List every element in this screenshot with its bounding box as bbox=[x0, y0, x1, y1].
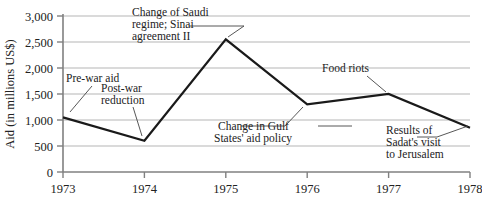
annotation-sadat-visit: Results of Sadat's visit to Jerusalem bbox=[386, 124, 444, 160]
annotation-gulf-states: Change in Gulf States' aid policy bbox=[214, 120, 292, 145]
annotation-food-riots-line1: Food riots bbox=[322, 62, 369, 74]
annotation-sadat-visit-line1: Results of bbox=[386, 124, 432, 136]
annotation-post-war-reduction-line2: reduction bbox=[101, 94, 145, 106]
y-axis-title: Aid (in millions US$) bbox=[3, 39, 17, 148]
x-tick-label-1978: 1978 bbox=[458, 182, 482, 196]
leader-food-riots bbox=[367, 76, 386, 92]
annotation-saudi-regime: Change of Saudi regime; Sinai agreement … bbox=[132, 6, 209, 43]
x-tick-marks bbox=[63, 172, 470, 178]
y-tick-label-0: 0 bbox=[47, 166, 53, 180]
x-tick-label-1977: 1977 bbox=[376, 182, 401, 196]
x-tick-label-1974: 1974 bbox=[132, 182, 158, 196]
annotation-saudi-regime-line3: agreement II bbox=[132, 30, 191, 43]
y-tick-label-1500: 1,500 bbox=[25, 88, 53, 102]
aid-line-chart-figure: 3,000 2,500 2,000 1,500 1,000 500 0 1973… bbox=[0, 0, 482, 204]
y-tick-label-3000: 3,000 bbox=[25, 10, 53, 24]
x-tick-label-1976: 1976 bbox=[295, 182, 320, 196]
chart-canvas: 3,000 2,500 2,000 1,500 1,000 500 0 1973… bbox=[0, 0, 482, 204]
y-tick-label-500: 500 bbox=[34, 140, 53, 154]
y-tick-label-2000: 2,000 bbox=[25, 62, 53, 76]
leader-post-war-reduction bbox=[133, 107, 142, 136]
annotation-sadat-visit-line2: Sadat's visit bbox=[386, 136, 442, 148]
y-tick-label-1000: 1,000 bbox=[25, 114, 53, 128]
annotation-food-riots: Food riots bbox=[322, 62, 369, 74]
annotation-post-war-reduction: Post-war reduction bbox=[101, 82, 145, 106]
x-tick-label-1973: 1973 bbox=[51, 182, 76, 196]
annotation-post-war-reduction-line1: Post-war bbox=[101, 82, 142, 94]
y-tick-label-2500: 2,500 bbox=[25, 36, 53, 50]
annotation-sadat-visit-line3: to Jerusalem bbox=[386, 148, 444, 160]
leader-pre-war-aid bbox=[70, 86, 92, 112]
y-tick-marks bbox=[57, 16, 63, 172]
x-tick-label-1975: 1975 bbox=[213, 182, 238, 196]
leader-saudi-regime bbox=[189, 26, 244, 37]
annotation-gulf-states-line2: States' aid policy bbox=[214, 132, 292, 145]
